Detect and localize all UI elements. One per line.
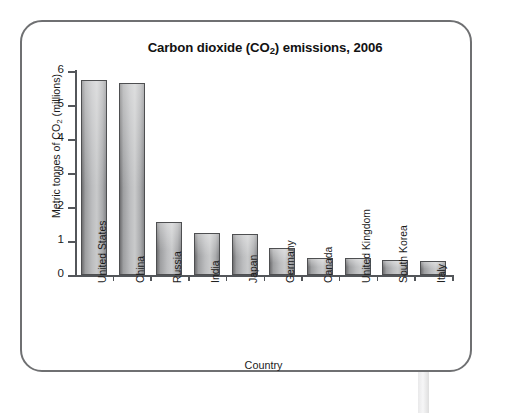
x-tick [226,275,228,281]
y-tick-0: 0 [68,275,75,277]
chart-title-tail: ) emissions, 2006 [275,40,383,55]
chart-region: Carbon dioxide (CO2) emissions, 2006 Met… [22,22,474,374]
x-tick [414,275,416,281]
y-axis-label: Metric tonnes of CO2 (millions) [50,46,62,246]
x-tick [377,275,379,281]
x-tick [264,275,266,281]
y-tick-2: 2 [68,207,75,209]
y-tick-6: 6 [68,71,75,73]
y-tick-label-2: 2 [58,199,64,211]
y-axis-label-subscript: 2 [55,119,64,123]
y-axis-line [75,70,77,275]
x-tick-label: United States [98,221,108,283]
x-tick-label: Japan [249,255,259,283]
x-tick-label: Canada [324,247,334,283]
figure-card: Carbon dioxide (CO2) emissions, 2006 Met… [20,20,472,372]
y-tick-5: 5 [68,105,75,107]
x-tick-label: Germany [286,240,296,283]
x-tick-label: China [136,256,146,283]
y-tick-label-1: 1 [58,233,64,245]
x-tick-label: Italy [437,264,447,283]
y-tick-label-4: 4 [58,131,64,143]
x-tick [188,275,190,281]
y-tick-label-5: 5 [58,97,64,109]
x-tick-label: Russia [173,251,183,283]
y-tick-label-0: 0 [58,267,64,279]
chart-title-subscript: 2 [270,45,275,56]
y-tick-1: 1 [68,241,75,243]
y-tick-4: 4 [68,139,75,141]
x-tick-label: South Korea [399,225,409,283]
x-tick [301,275,303,281]
x-tick [452,275,454,281]
card-stem [418,372,429,413]
y-tick-label-3: 3 [58,165,64,177]
bar [119,83,145,275]
x-tick-label: India [211,260,221,283]
x-tick [339,275,341,281]
chart-title-main: Carbon dioxide (CO [148,40,270,55]
x-tick [113,275,115,281]
plot-area: 0123456 [75,71,452,275]
x-tick-label: United Kingdom [362,209,372,283]
x-axis-label: Country [75,359,452,371]
chart-title: Carbon dioxide (CO2) emissions, 2006 [70,40,460,55]
y-tick-3: 3 [68,173,75,175]
x-tick [150,275,152,281]
y-tick-label-6: 6 [58,63,64,75]
